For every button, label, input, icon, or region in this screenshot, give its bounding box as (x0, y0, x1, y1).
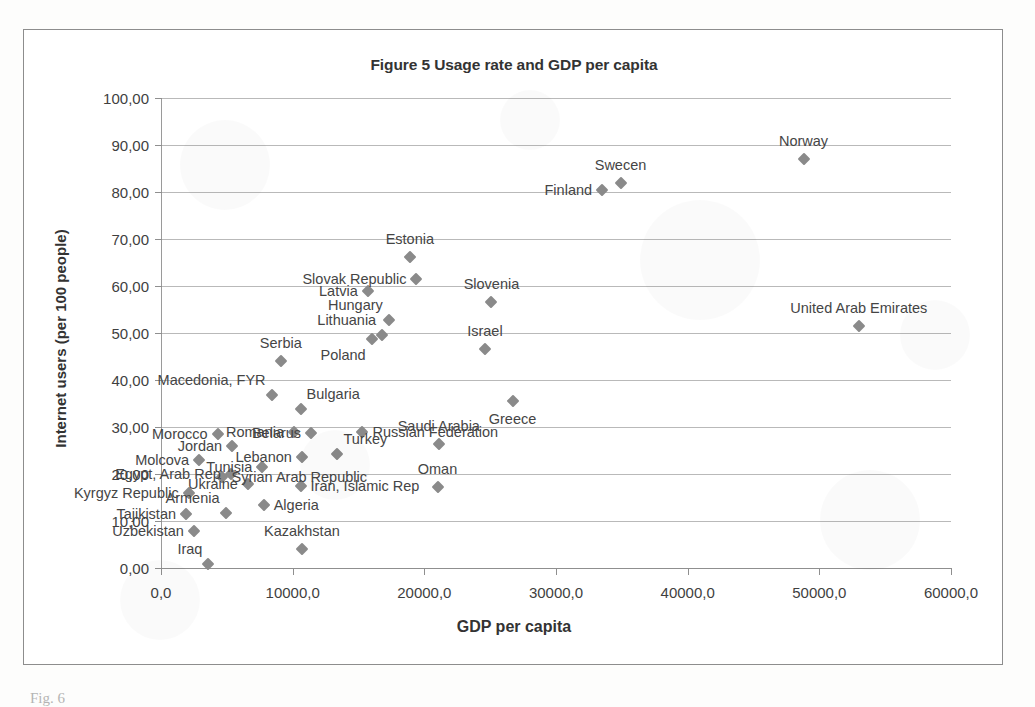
data-point-label: Kazakhstan (264, 524, 340, 539)
data-point-label: Bulgaria (307, 387, 360, 402)
x-tick-mark (819, 568, 820, 575)
data-point-label: Slovenia (464, 277, 520, 292)
data-point-label: Hungary (328, 298, 383, 313)
figure-caption: Fig. 6 (30, 690, 65, 707)
data-point-label: Israel (467, 324, 502, 339)
data-point-label: Algeria (274, 497, 319, 512)
data-point-label: Estonia (386, 232, 434, 247)
gridline (161, 333, 951, 334)
data-point-label: Romania (226, 424, 284, 439)
data-marker (219, 506, 232, 519)
x-tick-mark (688, 568, 689, 575)
gridline (161, 286, 951, 287)
y-tick-mark (155, 239, 162, 240)
data-marker (296, 543, 309, 556)
data-marker (614, 176, 627, 189)
y-tick-mark (155, 98, 162, 99)
y-tick-mark (155, 145, 162, 146)
data-marker (797, 153, 810, 166)
y-tick-mark (155, 286, 162, 287)
x-tick-mark (424, 568, 425, 575)
figure-frame: Figure 5 Usage rate and GDP per capita I… (23, 29, 1003, 665)
data-marker (180, 508, 193, 521)
data-point-label: United Arab Emirates (790, 301, 927, 316)
y-tick-mark (155, 192, 162, 193)
x-tick-label: 10000,0 (266, 584, 320, 601)
data-marker (265, 389, 278, 402)
data-point-label: Uzbekistan (112, 524, 184, 539)
data-marker (403, 250, 416, 263)
data-marker (485, 296, 498, 309)
y-tick-label: 90,00 (111, 137, 149, 154)
x-tick-label: 20000,0 (397, 584, 451, 601)
y-tick-mark (155, 333, 162, 334)
x-axis-title: GDP per capita (24, 618, 1004, 636)
y-tick-label: 100,00 (103, 90, 149, 107)
plot-area: 0,0010,0020,0030,0040,0050,0060,0070,008… (161, 98, 951, 568)
chart-title: Figure 5 Usage rate and GDP per capita (24, 56, 1004, 74)
data-marker (852, 320, 865, 333)
data-point-label: Oman (418, 462, 458, 477)
gridline (161, 380, 951, 381)
data-marker (331, 448, 344, 461)
y-tick-label: 0,00 (120, 560, 149, 577)
y-tick-label: 70,00 (111, 231, 149, 248)
gridline (161, 521, 951, 522)
data-marker (294, 403, 307, 416)
data-point-label: Russian Federation (372, 424, 498, 439)
data-marker (257, 498, 270, 511)
data-point-label: Macedonia, FYR (158, 373, 266, 388)
data-marker (296, 450, 309, 463)
data-point-label: Finland (545, 182, 593, 197)
data-marker (596, 183, 609, 196)
y-tick-label: 60,00 (111, 278, 149, 295)
data-marker (305, 426, 318, 439)
data-marker (479, 343, 492, 356)
data-marker (410, 273, 423, 286)
data-point-label: Armenia (166, 490, 220, 505)
data-marker (188, 525, 201, 538)
data-point-label: Poland (321, 347, 366, 362)
gridline (161, 239, 951, 240)
data-point-label: Serbia (260, 336, 302, 351)
gridline (161, 98, 951, 99)
x-tick-label: 0,0 (151, 584, 172, 601)
data-marker (193, 454, 206, 467)
data-marker (274, 355, 287, 368)
y-tick-label: 40,00 (111, 372, 149, 389)
data-point-label: Kyrgyz Republic (74, 486, 179, 501)
data-point-label: Tajikistan (116, 507, 176, 522)
y-tick-label: 30,00 (111, 419, 149, 436)
y-tick-label: 80,00 (111, 184, 149, 201)
x-tick-label: 60000,0 (924, 584, 978, 601)
data-point-label: Iran, Islamic Rep (311, 479, 420, 494)
scanned-page: Figure 5 Usage rate and GDP per capita I… (0, 0, 1035, 707)
data-point-label: Norway (779, 134, 828, 149)
data-point-label: Lithuania (317, 313, 376, 328)
data-marker (382, 313, 395, 326)
x-tick-mark (293, 568, 294, 575)
y-axis-title: Internet users (per 100 people) (52, 179, 69, 499)
data-marker (432, 438, 445, 451)
x-tick-label: 30000,0 (529, 584, 583, 601)
x-tick-label: 40000,0 (661, 584, 715, 601)
x-tick-mark (951, 568, 952, 575)
data-point-label: Swecen (595, 157, 647, 172)
y-tick-label: 50,00 (111, 325, 149, 342)
gridline (161, 145, 951, 146)
data-marker (376, 329, 389, 342)
x-tick-mark (556, 568, 557, 575)
data-marker (431, 481, 444, 494)
x-tick-label: 50000,0 (792, 584, 846, 601)
data-marker (506, 395, 519, 408)
data-point-label: Iraq (177, 542, 202, 557)
x-tick-mark (161, 568, 162, 575)
